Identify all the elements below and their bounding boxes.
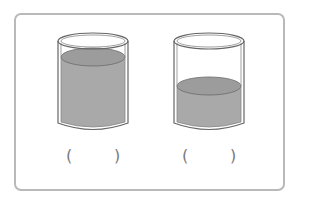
answer-blank-right-open: ( [182, 146, 188, 166]
beaker-left [55, 30, 131, 134]
answer-blank-right-close: ) [230, 146, 236, 166]
answer-blank-left-close: ) [114, 146, 120, 166]
beaker-right [171, 30, 247, 134]
answer-blank-left-open: ( [66, 146, 72, 166]
